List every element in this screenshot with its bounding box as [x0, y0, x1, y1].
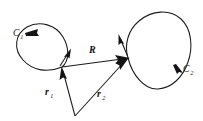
label-curve-c2-subscript: 2 [190, 69, 193, 76]
label-vector-r2-subscript: 2 [102, 94, 105, 101]
label-curve-c1-subscript: 1 [20, 33, 23, 40]
figure-background [0, 0, 203, 121]
label-vector-r1-subscript: 1 [50, 92, 53, 99]
label-vector-r1-base: r [45, 86, 49, 97]
figure-container: C 1 C 2 R r 1 r 2 [0, 0, 203, 121]
vector-diagram-canvas: C 1 C 2 R r 1 r 2 [0, 0, 203, 121]
label-curve-c2-base: C [183, 64, 190, 74]
label-vector-r2-base: r [97, 88, 101, 99]
label-curve-c1-base: C [13, 28, 20, 38]
label-vector-R-base: R [88, 44, 96, 55]
label-vector-R: R [88, 44, 96, 55]
